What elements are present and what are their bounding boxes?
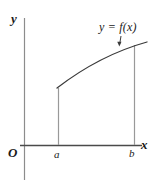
function-equation-label: y = f(x) (99, 21, 137, 33)
label-pointer-arrow (117, 36, 121, 46)
x-tick-label-b: b (129, 148, 135, 159)
function-curve (57, 42, 147, 88)
origin-label: O (8, 146, 17, 159)
x-axis-label: x (141, 138, 148, 151)
y-axis-label: y (11, 12, 17, 25)
function-graph-figure: y x O a b y = f(x) (0, 0, 160, 189)
x-tick-label-a: a (54, 149, 60, 160)
